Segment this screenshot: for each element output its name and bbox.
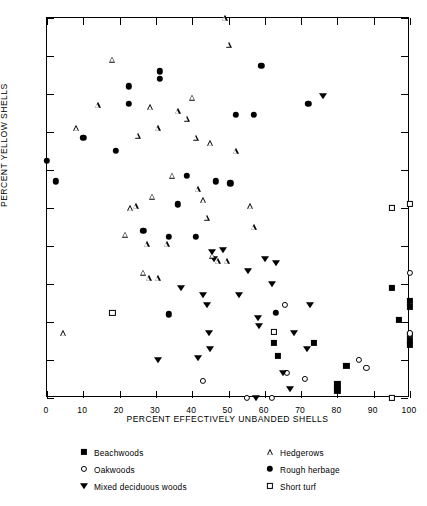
data-point (146, 275, 152, 281)
data-point (222, 15, 228, 21)
data-point (195, 186, 201, 192)
data-point (154, 357, 162, 363)
data-point (272, 309, 278, 315)
data-point (219, 247, 227, 253)
x-tick-top-100 (410, 18, 411, 25)
data-point (155, 125, 161, 131)
open-square-icon (267, 483, 273, 489)
data-point (144, 241, 150, 247)
data-point (189, 94, 195, 100)
legend-label: Oakwoods (94, 465, 135, 475)
data-point (147, 104, 153, 110)
data-point (80, 134, 86, 140)
x-tick-label-60: 60 (259, 406, 269, 415)
x-axis-title: PERCENT EFFECTIVELY UNBANDED SHELLS (46, 414, 409, 424)
data-point (109, 56, 115, 62)
data-point (156, 76, 162, 82)
x-tick-label-100: 100 (402, 406, 417, 415)
data-point (290, 331, 298, 337)
data-point (302, 376, 308, 382)
data-point (407, 201, 413, 207)
data-point (233, 112, 239, 118)
data-point (206, 346, 214, 352)
data-point (251, 112, 257, 118)
data-point (258, 62, 264, 68)
data-point (407, 342, 413, 348)
data-point (184, 115, 190, 121)
data-point (254, 315, 262, 321)
data-point (272, 260, 280, 266)
x-tick-label-50: 50 (223, 406, 233, 415)
data-point (122, 231, 128, 237)
data-point (251, 224, 257, 230)
data-point (95, 102, 101, 108)
data-point (233, 148, 239, 154)
data-point (334, 381, 340, 387)
data-point (334, 387, 340, 393)
data-point (204, 214, 210, 220)
data-point (396, 317, 402, 323)
x-tick-label-40: 40 (186, 406, 196, 415)
x-tick-100 (410, 391, 411, 398)
scatter-plot-figure: PERCENT YELLOW SHELLS PERCENT EFFECTIVEL… (0, 0, 427, 506)
data-point (193, 134, 199, 140)
data-point (255, 323, 263, 329)
data-point (169, 172, 175, 178)
data-point (44, 157, 50, 163)
data-point (60, 330, 66, 336)
data-point (155, 275, 161, 281)
data-point (235, 293, 243, 299)
data-point (125, 100, 131, 106)
data-point (174, 201, 180, 207)
data-point (407, 270, 413, 276)
data-point (53, 178, 59, 184)
data-point (164, 241, 170, 247)
legend-label: Rough herbage (280, 465, 340, 475)
data-point (215, 258, 221, 264)
x-tick-label-10: 10 (77, 406, 87, 415)
plot-area (46, 17, 409, 397)
data-point (226, 41, 232, 47)
data-point (244, 395, 250, 401)
data-point (73, 125, 79, 131)
x-tick-label-30: 30 (150, 406, 160, 415)
data-point (247, 203, 253, 209)
data-point (205, 331, 213, 337)
data-point (269, 395, 275, 401)
legend-label: Beachwoods (94, 448, 144, 458)
data-point (305, 100, 311, 106)
open-triangle-icon (267, 449, 273, 455)
x-tick-label-80: 80 (331, 406, 341, 415)
legend: BeachwoodsOakwoodsMixed deciduous woodsH… (80, 448, 410, 500)
data-point (311, 340, 317, 346)
data-point (175, 108, 181, 114)
y-axis-title: PERCENT YELLOW SHELLS (0, 83, 9, 207)
y-tick-right-0 (401, 398, 408, 399)
data-point (389, 285, 395, 291)
data-point (303, 346, 311, 352)
data-point (244, 268, 252, 274)
data-point (268, 281, 276, 287)
data-point (224, 258, 230, 264)
data-point (165, 233, 171, 239)
data-point (356, 357, 362, 363)
legend-label: Mixed deciduous woods (94, 482, 187, 492)
data-point (207, 140, 213, 146)
data-point (286, 386, 294, 392)
legend-label: Short turf (280, 482, 316, 492)
x-tick-label-20: 20 (114, 406, 124, 415)
data-point (199, 293, 207, 299)
data-point (140, 228, 146, 234)
data-point (343, 363, 349, 369)
data-point (194, 355, 202, 361)
data-point (184, 172, 190, 178)
data-point (177, 285, 185, 291)
data-point (109, 309, 115, 315)
data-point (363, 365, 369, 371)
data-point (407, 304, 413, 310)
data-point (306, 302, 314, 308)
data-point (200, 197, 206, 203)
legend-label: Hedgerows (280, 448, 324, 458)
data-point (113, 148, 119, 154)
data-point (165, 311, 171, 317)
